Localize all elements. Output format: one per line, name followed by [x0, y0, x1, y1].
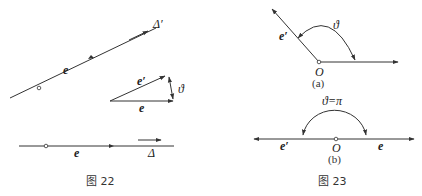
- angle-theta-label: ϑ: [178, 82, 185, 96]
- vector-triangle: e′ e ϑ: [110, 74, 185, 115]
- vector-e-prime-label: e′: [280, 139, 289, 153]
- figure-22-caption: 图 22: [86, 175, 115, 188]
- figure-23-caption: 图 23: [318, 175, 347, 188]
- vector-e-label: e: [63, 63, 69, 77]
- diagram-canvas: e Δ′ e′ e ϑ e Δ 图 22: [0, 0, 422, 196]
- figure-22: e Δ′ e′ e ϑ e Δ 图 22: [10, 17, 185, 188]
- vector-e-prime-label: e′: [279, 29, 288, 43]
- axis-delta-label: Δ: [147, 146, 155, 160]
- direction-arrow-icon: [129, 31, 148, 40]
- angle-arc: [298, 26, 355, 60]
- origin-point-icon: [37, 86, 41, 90]
- vector-e-label: e: [139, 101, 145, 115]
- origin-point-icon: [317, 60, 321, 64]
- vector-e-prime-label: e′: [137, 74, 146, 88]
- figure-23a: e′ ϑ O (a): [272, 9, 398, 90]
- subfigure-a-label: (a): [312, 77, 325, 90]
- vector-e-label: e: [378, 139, 384, 153]
- angle-arc: [303, 110, 366, 135]
- midline-arrowhead-icon: [109, 144, 114, 148]
- vector-e-label: e: [74, 146, 80, 160]
- horizontal-axis-delta: e Δ: [19, 140, 174, 160]
- origin-point-icon: [44, 144, 48, 148]
- angle-theta-label: ϑ: [333, 18, 340, 32]
- figure-23b: ϑ=π e′ O e (b): [254, 94, 414, 166]
- axis-delta-prime-label: Δ′: [152, 17, 163, 31]
- figure-23: e′ ϑ O (a) ϑ=π e′ O e (b) 图 23: [254, 9, 414, 188]
- subfigure-b-label: (b): [328, 153, 341, 166]
- angle-pi-label: ϑ=π: [322, 94, 343, 108]
